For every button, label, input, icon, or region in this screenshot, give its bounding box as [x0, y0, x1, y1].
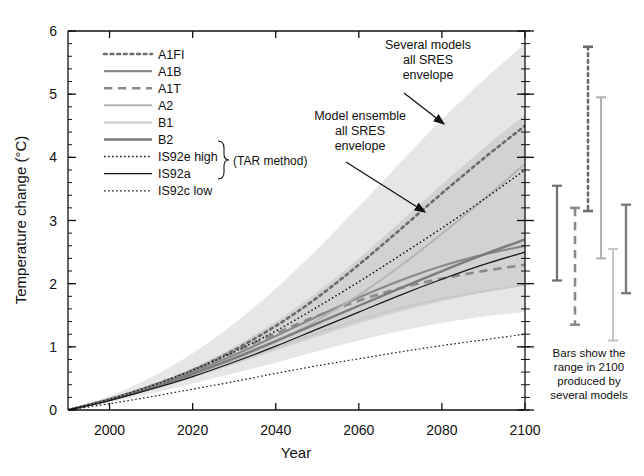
x-axis-title: Year	[281, 444, 311, 461]
y-tick-label: 1	[49, 339, 57, 355]
legend-label-b2: B2	[158, 133, 173, 147]
climate-projection-chart: 2000202020402060208021000123456 Year Tem…	[0, 0, 644, 476]
y-tick-label: 5	[49, 86, 57, 102]
legend-label-is92a: IS92a	[158, 167, 191, 181]
y-tick-label: 3	[49, 213, 57, 229]
x-tick-label: 2060	[343, 422, 374, 438]
anno-ensemble-line-1: Model ensemble	[314, 109, 406, 123]
anno-several-line-1: Several models	[385, 38, 471, 52]
y-tick-label: 6	[49, 23, 57, 39]
caption-line-1: Bars show the	[553, 347, 626, 359]
anno-several-line-3: envelope	[403, 68, 454, 82]
y-tick-label: 4	[49, 149, 57, 165]
x-tick-label: 2040	[260, 422, 291, 438]
caption-line-3: produced by	[557, 375, 621, 387]
legend-label-b1: B1	[158, 116, 173, 130]
x-tick-label: 2000	[94, 422, 125, 438]
chart-figure: 2000202020402060208021000123456 Year Tem…	[0, 0, 644, 476]
y-axis-title: Temperature change (°C)	[12, 136, 29, 305]
legend-label-a1t: A1T	[158, 82, 181, 96]
x-tick-label: 2080	[426, 422, 457, 438]
legend-label-a1b: A1B	[158, 65, 182, 79]
caption-line-4: several models	[550, 389, 628, 401]
y-tick-label: 0	[49, 402, 57, 418]
x-tick-label: 2020	[177, 422, 208, 438]
anno-ensemble-line-3: envelope	[335, 139, 386, 153]
anno-ensemble-line-2: all SRES	[335, 124, 385, 138]
legend-label-is92c-low: IS92c low	[158, 184, 213, 198]
caption-line-2: range in 2100	[554, 361, 624, 373]
legend-label-is92e-high: IS92e high	[158, 150, 218, 164]
x-tick-label: 2100	[509, 422, 540, 438]
legend-label-a2: A2	[158, 99, 173, 113]
legend-label-a1fi: A1FI	[158, 48, 184, 62]
anno-several-line-2: all SRES	[403, 53, 453, 67]
tar-method-label: (TAR method)	[233, 154, 307, 168]
y-tick-label: 2	[49, 276, 57, 292]
